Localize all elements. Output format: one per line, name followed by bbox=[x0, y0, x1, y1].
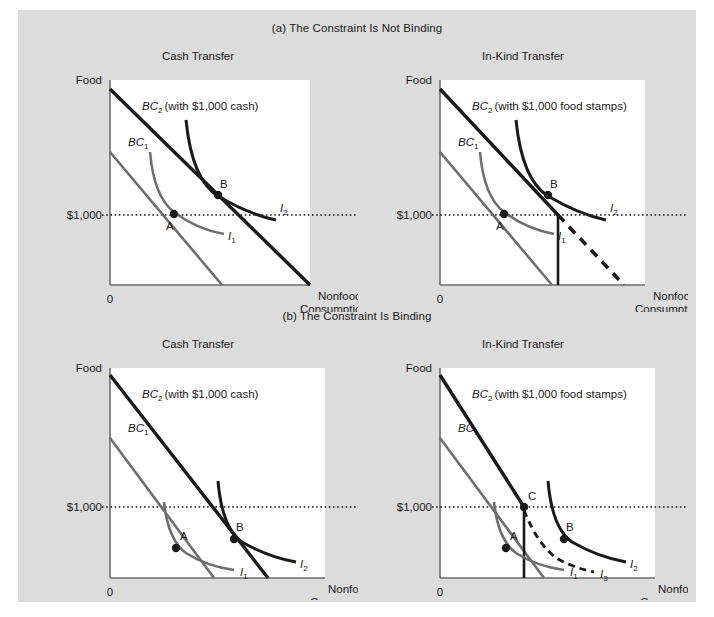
x-axis-label-line1: Nonfood bbox=[653, 290, 688, 302]
y-axis-label: Food bbox=[76, 74, 102, 86]
point-b-marker bbox=[214, 191, 222, 199]
point-a-label: A bbox=[166, 220, 174, 232]
origin-label: 0 bbox=[107, 586, 113, 598]
x-axis-label-line2: Consumption bbox=[310, 596, 358, 600]
origin-label: 0 bbox=[437, 586, 443, 598]
point-a-label: A bbox=[510, 530, 518, 542]
y-tick-1000: $1,000 bbox=[397, 209, 432, 221]
chart-a-cash: Food $1,000 0 Nonfood Consumption BC1 BC… bbox=[28, 62, 358, 312]
point-c-label: C bbox=[528, 490, 536, 502]
chart-b-cash: Food $1,000 0 Nonfood Consumption BC1 BC… bbox=[28, 350, 358, 600]
point-b-label: B bbox=[220, 178, 228, 190]
point-b-marker bbox=[560, 535, 568, 543]
point-a-label: A bbox=[180, 530, 188, 542]
chart-b-inkind-subtitle: In-Kind Transfer bbox=[443, 338, 603, 350]
y-tick-1000: $1,000 bbox=[67, 501, 102, 513]
point-b-label: B bbox=[236, 521, 244, 533]
y-tick-1000: $1,000 bbox=[397, 501, 432, 513]
point-b-marker bbox=[230, 535, 238, 543]
point-a-marker bbox=[172, 544, 180, 552]
figure-container: (a) The Constraint Is Not Binding Cash T… bbox=[18, 10, 696, 602]
y-axis-label: Food bbox=[406, 74, 432, 86]
panel-b-title: (b) The Constraint Is Binding bbox=[18, 310, 696, 322]
point-a-marker bbox=[500, 210, 508, 218]
chart-b-cash-subtitle: Cash Transfer bbox=[118, 338, 278, 350]
chart-a-cash-subtitle: Cash Transfer bbox=[118, 50, 278, 62]
point-a-marker bbox=[502, 544, 510, 552]
chart-b-inkind: Food $1,000 0 Nonfood Consumption BC1 BC… bbox=[358, 350, 688, 600]
point-a-label: A bbox=[496, 220, 504, 232]
panel-a-title: (a) The Constraint Is Not Binding bbox=[18, 22, 696, 34]
chart-a-inkind: Food $1,000 0 Nonfood Consumption BC1 BC… bbox=[358, 62, 688, 312]
y-tick-1000: $1,000 bbox=[67, 209, 102, 221]
point-b-marker bbox=[544, 191, 552, 199]
point-b-label: B bbox=[566, 521, 574, 533]
point-c-marker bbox=[520, 503, 528, 511]
x-axis-label-line1: Nonfood bbox=[318, 290, 358, 302]
origin-label: 0 bbox=[107, 293, 113, 305]
x-axis-label-line1: Nonfood bbox=[658, 583, 688, 595]
chart-a-inkind-subtitle: In-Kind Transfer bbox=[443, 50, 603, 62]
point-a-marker bbox=[170, 210, 178, 218]
origin-label: 0 bbox=[437, 293, 443, 305]
point-b-label: B bbox=[550, 178, 558, 190]
x-axis-label-line1: Nonfood bbox=[328, 583, 358, 595]
y-axis-label: Food bbox=[76, 362, 102, 374]
x-axis-label-line2: Consumption bbox=[640, 596, 688, 600]
y-axis-label: Food bbox=[406, 362, 432, 374]
